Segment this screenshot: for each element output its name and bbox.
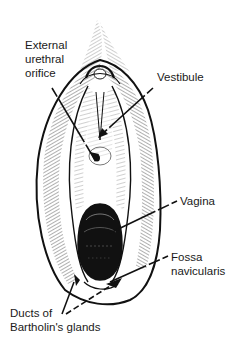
label-ducts-of-bartholins-glands: Ducts of Bartholin's glands: [10, 306, 100, 334]
label-vestibule: Vestibule: [157, 70, 204, 84]
label-line: External: [25, 38, 67, 52]
label-line: Fossa: [171, 250, 225, 264]
label-line: urethral: [25, 52, 67, 66]
label-external-urethral-orifice: External urethral orifice: [25, 38, 67, 80]
vaginal-opening: [78, 204, 122, 280]
label-line: navicularis: [171, 264, 225, 278]
label-line: orifice: [25, 66, 67, 80]
label-line: Vestibule: [157, 70, 204, 84]
label-fossa-navicularis: Fossa navicularis: [171, 250, 225, 278]
label-vagina: Vagina: [180, 194, 215, 208]
mons-pubis: [80, 20, 130, 72]
label-line: Bartholin's glands: [10, 320, 100, 334]
label-line: Ducts of: [10, 306, 100, 320]
anatomy-diagram: External urethral orifice Vestibule Vagi…: [0, 0, 245, 349]
label-line: Vagina: [180, 194, 215, 208]
